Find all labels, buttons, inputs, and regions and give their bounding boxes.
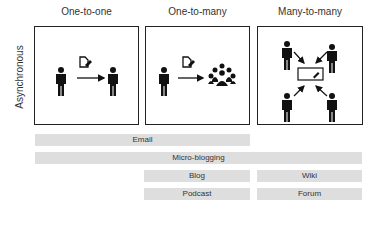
bar-blog: Blog [144, 170, 250, 182]
person-icon [56, 67, 66, 96]
person-icon [327, 93, 337, 122]
bar-forum: Forum [257, 188, 362, 200]
bar-email: Email [35, 134, 250, 146]
document-edit-icon [183, 57, 195, 67]
bar-wiki: Wiki [257, 170, 362, 182]
bar-podcast: Podcast [144, 188, 250, 200]
person-icon [108, 67, 118, 96]
whiteboard-icon [298, 68, 323, 80]
bar-micro-blogging: Micro-blogging [35, 152, 362, 164]
person-icon [282, 41, 292, 70]
person-icon [282, 93, 292, 122]
person-icon [327, 44, 337, 73]
group-icon [208, 64, 236, 87]
person-icon [159, 67, 169, 96]
document-edit-icon [80, 57, 92, 67]
